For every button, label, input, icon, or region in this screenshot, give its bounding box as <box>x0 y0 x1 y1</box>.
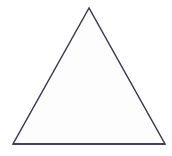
triangle-diagram-svg <box>0 0 172 156</box>
figure-canvas <box>0 0 172 156</box>
